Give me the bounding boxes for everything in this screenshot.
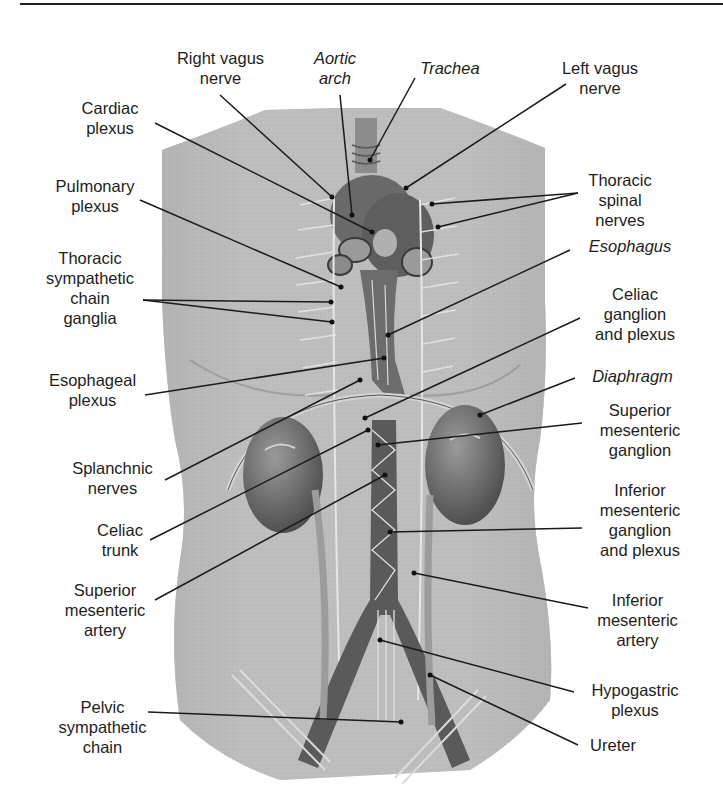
label-ureter: Ureter bbox=[578, 735, 648, 755]
anatomy-figure: Right vagus nerve Aortic arch Trachea Le… bbox=[0, 0, 723, 801]
label-superior-mesenteric-artery: Superior mesenteric artery bbox=[45, 580, 165, 640]
label-splanchnic-nerves: Splanchnic nerves bbox=[50, 458, 175, 498]
label-hypogastric-plexus: Hypogastric plexus bbox=[575, 680, 695, 720]
label-celiac-ganglion-and-plexus: Celiac ganglion and plexus bbox=[575, 284, 695, 344]
label-superior-mesenteric-ganglion: Superior mesenteric ganglion bbox=[580, 400, 700, 460]
label-aortic-arch: Aortic arch bbox=[300, 48, 370, 88]
label-right-vagus-nerve: Right vagus nerve bbox=[158, 48, 283, 88]
label-left-vagus-nerve: Left vagus nerve bbox=[545, 58, 655, 98]
label-celiac-trunk: Celiac trunk bbox=[75, 520, 165, 560]
label-inferior-mesenteric-ganglion-and-plexus: Inferior mesenteric ganglion and plexus bbox=[580, 480, 700, 560]
label-trachea: Trachea bbox=[410, 58, 490, 78]
label-pulmonary-plexus: Pulmonary plexus bbox=[35, 176, 155, 216]
label-esophageal-plexus: Esophageal plexus bbox=[30, 370, 155, 410]
label-diaphragm: Diaphragm bbox=[575, 366, 690, 386]
label-thoracic-sympathetic-chain-ganglia: Thoracic sympathetic chain ganglia bbox=[25, 248, 155, 328]
label-thoracic-spinal-nerves: Thoracic spinal nerves bbox=[565, 170, 675, 230]
label-cardiac-plexus: Cardiac plexus bbox=[60, 98, 160, 138]
label-inferior-mesenteric-artery: Inferior mesenteric artery bbox=[580, 590, 695, 650]
trachea-illustration bbox=[352, 118, 380, 173]
label-pelvic-sympathetic-chain: Pelvic sympathetic chain bbox=[40, 697, 165, 757]
label-esophagus: Esophagus bbox=[570, 236, 690, 256]
